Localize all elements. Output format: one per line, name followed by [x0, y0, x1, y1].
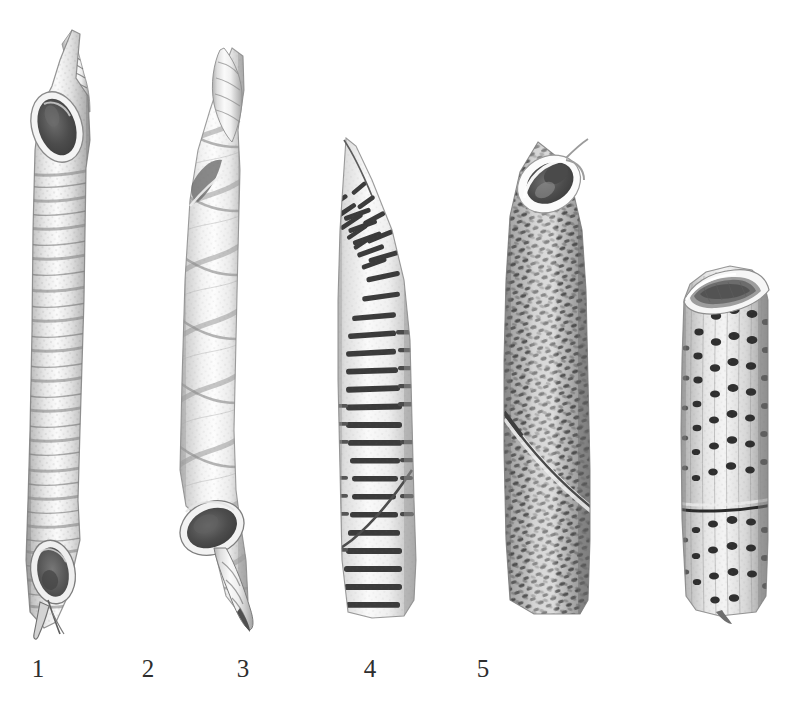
- figure-label-4: 4: [350, 655, 390, 683]
- illustration-plate: [0, 0, 812, 717]
- figure-label-5: 5: [463, 655, 503, 683]
- specimen-5-figure: [674, 262, 774, 624]
- figure-label-3: 3: [223, 655, 263, 683]
- figure-label-2: 2: [128, 655, 168, 683]
- figure-label-1: 1: [18, 655, 58, 683]
